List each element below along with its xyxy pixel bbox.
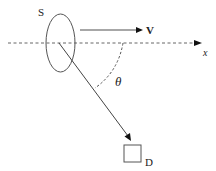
- velocity-arrow: [80, 27, 143, 33]
- x-axis: [8, 40, 202, 46]
- axis-label: x: [202, 47, 208, 58]
- velocity-arrowhead-icon: [136, 27, 143, 33]
- x-axis-arrowhead-icon: [194, 40, 202, 46]
- detector-box: [124, 145, 141, 162]
- detector-label: D: [145, 156, 153, 168]
- doppler-diagram: S V x θ D: [0, 0, 216, 171]
- angle-label: θ: [115, 74, 122, 89]
- velocity-label: V: [146, 24, 154, 36]
- ray-to-detector: [59, 43, 131, 141]
- ray-arrowhead-icon: [125, 133, 132, 141]
- source-label: S: [38, 6, 44, 18]
